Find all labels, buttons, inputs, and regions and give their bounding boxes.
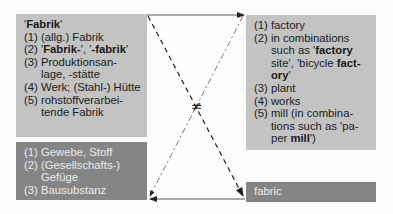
- sense-2: (2) 'Fabrik-', '-fabrik': [24, 43, 141, 56]
- headword: 'Fabrik': [24, 18, 141, 31]
- german-false-friend-box: (1) Gewebe, Stoff (2) (Gesellschafts-) G…: [16, 142, 147, 200]
- sense-4: (4) works: [254, 95, 370, 108]
- sense-4: (4) Werk; (Stahl-) Hütte: [24, 81, 141, 94]
- sense-5: (5) rohstoffverarbei-tende Fabrik: [24, 94, 141, 119]
- sense-1: (1) Gewebe, Stoff: [24, 146, 141, 159]
- sense-1: (1) factory: [254, 19, 370, 32]
- sense-2: (2) in combinations such as 'factory sit…: [254, 32, 370, 82]
- fabric-label: fabric: [254, 185, 282, 197]
- english-factory-box: (1) factory (2) in combinations such as …: [246, 15, 376, 150]
- sense-5: (5) mill (in combina-tions such as 'pa-p…: [254, 107, 370, 145]
- english-fabric-box: fabric: [246, 182, 376, 202]
- german-fabrik-box: 'Fabrik' (1) (allg.) Fabrik (2) 'Fabrik-…: [16, 14, 147, 137]
- sense-3: (3) Bausubstanz: [24, 184, 141, 197]
- sense-2: (2) (Gesellschafts-) Gefüge: [24, 159, 141, 184]
- not-equal-symbol: ≠: [191, 98, 203, 114]
- sense-1: (1) (allg.) Fabrik: [24, 31, 141, 44]
- sense-3: (3) plant: [254, 82, 370, 95]
- sense-3: (3) Produktionsan-lage, -stätte: [24, 56, 141, 81]
